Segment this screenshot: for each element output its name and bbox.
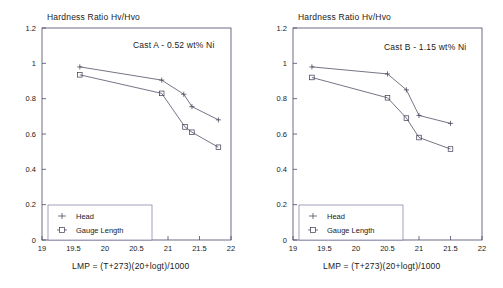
data-point-square-icon <box>78 73 83 78</box>
chart-panel-a: Hardness Ratio Hv/Hvo Cast A - 0.52 wt% … <box>0 0 251 288</box>
x-axis-label-b: LMP = (T+273)(20+logt)/1000 <box>323 261 440 271</box>
y-tick-label: 1.2 <box>26 24 36 33</box>
y-tick-label: 0.6 <box>26 130 36 139</box>
legend-square-icon <box>60 228 65 233</box>
y-tick-label: 1 <box>283 59 287 68</box>
y-tick-label: 0.2 <box>277 200 287 209</box>
series-path <box>80 67 219 120</box>
series-head <box>309 64 453 126</box>
series-gauge-length <box>310 75 453 151</box>
x-tick-label: 21 <box>164 244 172 253</box>
legend-label: Head <box>76 212 94 221</box>
legend: HeadGauge Length <box>48 205 152 240</box>
chart-panel-b: Hardness Ratio Hv/Hvo Cast B - 1.15 wt% … <box>251 0 502 288</box>
y-tick-label: 1.2 <box>277 24 287 33</box>
x-tick-label: 20 <box>101 244 109 253</box>
data-point-plus-icon <box>77 64 82 69</box>
y-tick-label: 0.4 <box>26 165 36 174</box>
legend-square-icon <box>311 228 316 233</box>
y-tick-label: 0.8 <box>26 94 36 103</box>
x-tick-label: 22 <box>478 244 486 253</box>
x-tick-label: 19.5 <box>317 244 332 253</box>
legend-label: Gauge Length <box>327 226 375 235</box>
x-tick-label: 20.5 <box>380 244 395 253</box>
legend-label: Gauge Length <box>76 226 124 235</box>
x-tick-label: 19.5 <box>66 244 81 253</box>
series-head <box>77 64 221 122</box>
data-point-plus-icon <box>181 92 186 97</box>
plot-area-a: 00.20.40.60.811.21919.52020.52121.522Hea… <box>0 0 251 288</box>
figure-root: Hardness Ratio Hv/Hvo Cast A - 0.52 wt% … <box>0 0 503 288</box>
data-point-plus-icon <box>416 113 421 118</box>
legend-label: Head <box>327 212 345 221</box>
series-gauge-length <box>78 73 221 150</box>
y-tick-label: 0.2 <box>26 200 36 209</box>
y-tick-label: 1 <box>32 59 36 68</box>
plot-area-b: 00.20.40.60.811.21919.52020.52121.522Hea… <box>251 0 502 288</box>
series-path <box>80 75 219 147</box>
data-point-plus-icon <box>189 104 194 109</box>
data-point-plus-icon <box>309 64 314 69</box>
x-tick-label: 22 <box>227 244 235 253</box>
y-tick-label: 0.4 <box>277 165 287 174</box>
legend: HeadGauge Length <box>299 205 403 240</box>
series-path <box>312 67 451 124</box>
y-tick-label: 0.8 <box>277 94 287 103</box>
data-point-plus-icon <box>216 117 221 122</box>
x-tick-label: 19 <box>38 244 46 253</box>
data-point-plus-icon <box>159 78 164 83</box>
x-tick-label: 21.5 <box>443 244 458 253</box>
x-tick-label: 20 <box>352 244 360 253</box>
x-tick-label: 20.5 <box>129 244 144 253</box>
data-point-square-icon <box>310 75 315 80</box>
y-tick-label: 0.6 <box>277 130 287 139</box>
data-point-square-icon <box>216 145 221 150</box>
data-point-plus-icon <box>448 121 453 126</box>
x-tick-label: 21.5 <box>192 244 207 253</box>
x-tick-label: 21 <box>415 244 423 253</box>
x-axis-label-a: LMP = (T+273)(20+logt)/1000 <box>72 261 189 271</box>
y-tick-label: 0 <box>283 236 287 245</box>
x-tick-label: 19 <box>289 244 297 253</box>
y-tick-label: 0 <box>32 236 36 245</box>
series-path <box>312 77 451 149</box>
